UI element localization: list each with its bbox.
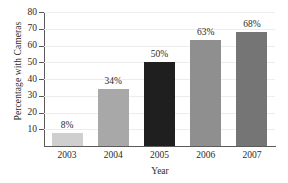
bar-value-label: 8% [44, 121, 90, 131]
y-axis-title: Percentage with Cameras [13, 1, 23, 141]
bar-chart: Percentage with Cameras 8070605040302010… [0, 0, 288, 183]
y-tick-label: 50 [0, 58, 37, 68]
x-axis-title: Year [44, 166, 276, 176]
x-tick-label: 2005 [137, 150, 183, 161]
bar-value-label: 68% [229, 20, 275, 30]
bar [52, 133, 83, 146]
x-tick-label: 2003 [44, 150, 90, 161]
y-tick-label: 80 [0, 8, 37, 18]
y-tick-label: 10 [0, 125, 37, 135]
bar-value-label: 50% [137, 50, 183, 60]
bar-value-label: 63% [183, 28, 229, 38]
x-tick-label: 2006 [183, 150, 229, 161]
plot-area: 8%34%50%63%68% [44, 12, 275, 146]
gridline [44, 12, 275, 13]
x-axis-line [44, 146, 276, 147]
bar-value-label: 34% [90, 77, 136, 87]
y-tick-label: 20 [0, 108, 37, 118]
bar [144, 62, 175, 146]
y-tick-label: 30 [0, 91, 37, 101]
bar [236, 32, 267, 146]
x-tick-label: 2004 [90, 150, 136, 161]
bar [190, 40, 221, 146]
y-tick-label: 60 [0, 41, 37, 51]
x-tick-label: 2007 [229, 150, 275, 161]
y-tick-label: 70 [0, 24, 37, 34]
y-tick-label: 40 [0, 75, 37, 85]
bar [98, 89, 129, 146]
